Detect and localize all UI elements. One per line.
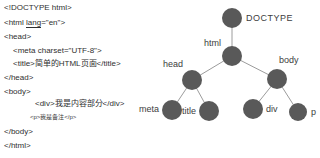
node-body-label: body [279, 55, 299, 65]
node-head-circle [182, 70, 202, 90]
node-doctype-circle [222, 8, 242, 28]
node-doctype-label: DOCTYPE [246, 13, 293, 23]
tree-graphic [0, 0, 320, 158]
node-title-label: title [182, 106, 196, 116]
node-html-label: html [204, 38, 221, 48]
node-p-label: p [311, 107, 316, 117]
node-div-circle [243, 99, 263, 119]
node-title-circle [199, 101, 219, 121]
node-head-label: head [163, 59, 183, 69]
node-html-circle [222, 46, 242, 66]
node-div-label: div [266, 104, 278, 114]
node-p-circle [289, 103, 307, 121]
dom-tree-diagram: <!DOCTYPE html> <html lang="en"> <head> … [0, 0, 320, 158]
node-meta-circle [162, 100, 182, 120]
node-meta-label: meta [139, 104, 159, 114]
node-body-circle [267, 69, 287, 89]
